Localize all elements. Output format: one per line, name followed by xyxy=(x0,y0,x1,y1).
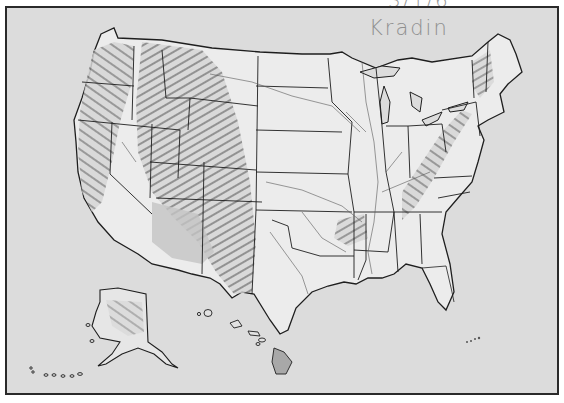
florida-keys xyxy=(466,337,480,343)
us-map xyxy=(7,8,559,395)
map-frame: Kradin xyxy=(5,6,559,395)
contiguous-us xyxy=(74,28,522,334)
alaska xyxy=(30,288,178,377)
handwritten-name: Kradin xyxy=(369,16,449,40)
